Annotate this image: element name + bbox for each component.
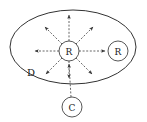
broadcast-arrow-northeast bbox=[76, 27, 93, 44]
diagram-canvas: D R R C bbox=[0, 0, 147, 122]
center-router-label: R bbox=[66, 47, 73, 57]
broadcast-arrow-northwest bbox=[45, 27, 62, 44]
node-right-router: R bbox=[108, 41, 128, 61]
right-router-label: R bbox=[115, 47, 122, 57]
node-client: C bbox=[62, 97, 82, 117]
radial-broadcast-diagram: D R R C bbox=[0, 0, 147, 122]
region-label-d: D bbox=[27, 67, 35, 78]
broadcast-arrow-southwest bbox=[46, 58, 62, 74]
node-center-router: R bbox=[59, 41, 79, 61]
broadcast-arrow-southeast bbox=[76, 58, 92, 74]
client-label: C bbox=[69, 103, 76, 113]
